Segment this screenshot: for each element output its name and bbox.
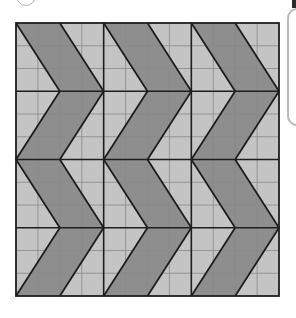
chevron-tessellation-figure — [0, 0, 296, 318]
